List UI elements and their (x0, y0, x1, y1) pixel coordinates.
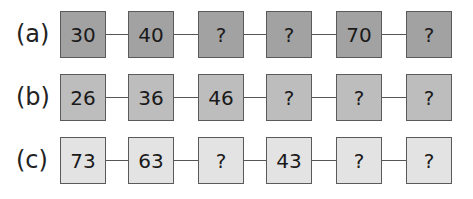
connector-line (312, 160, 336, 161)
connector-line (243, 34, 266, 35)
number-box: ? (406, 137, 452, 184)
sequence-row-a: (a) 30 40 ? ? 70 ? (0, 11, 473, 58)
connector-line (382, 97, 406, 98)
connector-line (173, 160, 198, 161)
number-box: ? (336, 137, 382, 184)
row-label: (b) (16, 82, 50, 112)
sequence-row-b: (b) 26 36 46 ? ? ? (0, 74, 473, 121)
connector-line (382, 160, 406, 161)
number-box: 30 (60, 11, 106, 58)
connector-line (105, 34, 128, 35)
number-box: ? (266, 74, 312, 121)
connector-line (382, 34, 406, 35)
number-box: ? (336, 74, 382, 121)
row-label: (a) (16, 19, 49, 49)
number-box: ? (266, 11, 312, 58)
connector-line (243, 160, 266, 161)
number-box: 26 (60, 74, 106, 121)
number-box: ? (198, 137, 244, 184)
connector-line (105, 160, 128, 161)
number-box: 36 (128, 74, 174, 121)
row-label: (c) (16, 145, 48, 175)
connector-line (105, 97, 128, 98)
number-box: 73 (60, 137, 106, 184)
connector-line (173, 97, 198, 98)
number-box: ? (406, 11, 452, 58)
connector-line (243, 97, 266, 98)
connector-line (312, 97, 336, 98)
sequence-row-c: (c) 73 63 ? 43 ? ? (0, 137, 473, 184)
number-box: 46 (198, 74, 244, 121)
number-box: ? (406, 74, 452, 121)
number-box: 40 (128, 11, 174, 58)
connector-line (312, 34, 336, 35)
number-box: 70 (336, 11, 382, 58)
number-box: 43 (266, 137, 312, 184)
number-box: 63 (128, 137, 174, 184)
number-box: ? (198, 11, 244, 58)
connector-line (173, 34, 198, 35)
